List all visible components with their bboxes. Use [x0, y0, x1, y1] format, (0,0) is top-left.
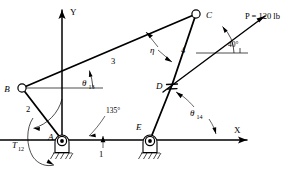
theta14-leader-upper-arrowhead [176, 92, 183, 98]
ground-pivot-e[interactable] [143, 135, 157, 153]
svg-text:14: 14 [197, 114, 203, 120]
link-4-lower [150, 85, 172, 140]
joint-c[interactable] [192, 10, 200, 18]
svg-text:12: 12 [18, 146, 24, 152]
label-joint-b: B [4, 84, 10, 94]
theta14-leader-lower-arrowhead [212, 127, 216, 134]
joint-b[interactable] [18, 84, 26, 92]
force-p-line [163, 16, 265, 92]
label-force-p: P = 120 lb [245, 11, 280, 21]
angle-135-arc [34, 99, 63, 128]
mechanism-svg: B C D A E Y X 1 2 3 4 θ 13 θ 14 η 135° 4… [0, 0, 295, 175]
svg-text:13: 13 [89, 84, 95, 90]
link-3-coupler [22, 14, 196, 88]
label-angle-40: 40° [228, 40, 239, 49]
link-1-leader-arrowhead [101, 136, 106, 142]
mechanism-diagram: B C D A E Y X 1 2 3 4 θ 13 θ 14 η 135° 4… [0, 0, 295, 175]
theta13-arc-arrowhead [89, 71, 93, 77]
ground-pivot-a[interactable] [55, 135, 69, 153]
label-link-1: 1 [99, 149, 103, 159]
label-theta13: θ 13 [82, 78, 95, 90]
label-link-2: 2 [26, 104, 30, 114]
label-link-3: 3 [111, 56, 115, 66]
label-y-axis: Y [70, 7, 77, 17]
label-eta: η [150, 45, 155, 55]
svg-text:θ: θ [82, 78, 87, 88]
label-x-axis: X [234, 125, 241, 135]
label-torque-t12: T 12 [12, 140, 24, 152]
label-joint-a: A [47, 132, 54, 142]
label-joint-d: D [155, 81, 163, 91]
ground-hatch-a [51, 153, 74, 159]
label-angle-135: 135° [106, 106, 120, 115]
angle-135-leader [89, 116, 105, 136]
label-joint-c: C [206, 10, 213, 20]
label-theta14: θ 14 [190, 108, 203, 120]
label-joint-e: E [135, 122, 142, 132]
svg-text:θ: θ [190, 108, 195, 118]
torque-t12-arrowhead [47, 159, 55, 165]
ground-hatch-e [139, 153, 162, 159]
